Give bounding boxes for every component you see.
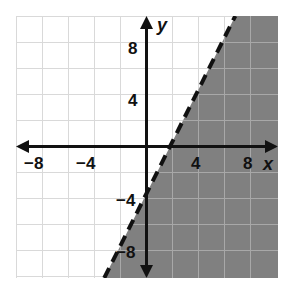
y-tick-label-neg8: −8 bbox=[116, 244, 135, 261]
y-tick-label-8: 8 bbox=[128, 40, 137, 57]
y-tick-label-4: 4 bbox=[128, 92, 137, 109]
x-tick-label-neg4: −4 bbox=[76, 155, 95, 172]
x-tick-label-neg8: −8 bbox=[24, 155, 43, 172]
coordinate-plane-figure: −8 −4 4 8 8 4 −4 −8 x y bbox=[0, 0, 294, 290]
graph-canvas bbox=[16, 16, 278, 278]
x-tick-label-4: 4 bbox=[191, 155, 200, 172]
y-tick-label-neg4: −4 bbox=[116, 192, 135, 209]
plot-area bbox=[16, 16, 278, 278]
y-axis-name: y bbox=[157, 16, 167, 34]
x-axis-name: x bbox=[263, 155, 273, 173]
x-tick-label-8: 8 bbox=[243, 155, 252, 172]
